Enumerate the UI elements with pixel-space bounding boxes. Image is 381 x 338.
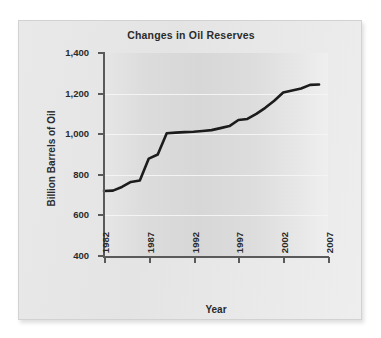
y-axis-tick-label: 1,400 bbox=[43, 47, 89, 58]
chart-title: Changes in Oil Reserves bbox=[19, 29, 363, 41]
x-axis-tick-label: 1987 bbox=[145, 232, 156, 266]
y-axis-title: Billion Barrels of Oil bbox=[46, 89, 57, 229]
y-axis-tick-label: 400 bbox=[43, 250, 89, 261]
y-axis-line bbox=[103, 52, 105, 257]
y-axis-tick bbox=[98, 174, 104, 176]
x-axis-line bbox=[103, 256, 329, 258]
figure-root: Changes in Oil Reserves 1,400 1,200 1,00… bbox=[0, 0, 381, 338]
x-axis-tick-label: 2007 bbox=[324, 232, 335, 266]
y-axis-tick bbox=[98, 93, 104, 95]
chart-card: Changes in Oil Reserves 1,400 1,200 1,00… bbox=[18, 20, 362, 320]
x-axis-tick-label: 1982 bbox=[100, 232, 111, 266]
y-axis-tick bbox=[98, 52, 104, 54]
x-axis-tick-label: 1997 bbox=[234, 232, 245, 266]
x-axis-title: Year bbox=[103, 304, 329, 315]
x-axis-tick-label: 2002 bbox=[279, 232, 290, 266]
y-axis-tick bbox=[98, 214, 104, 216]
data-series-line bbox=[104, 53, 328, 256]
x-axis-tick-label: 1992 bbox=[190, 232, 201, 266]
y-axis-tick bbox=[98, 133, 104, 135]
